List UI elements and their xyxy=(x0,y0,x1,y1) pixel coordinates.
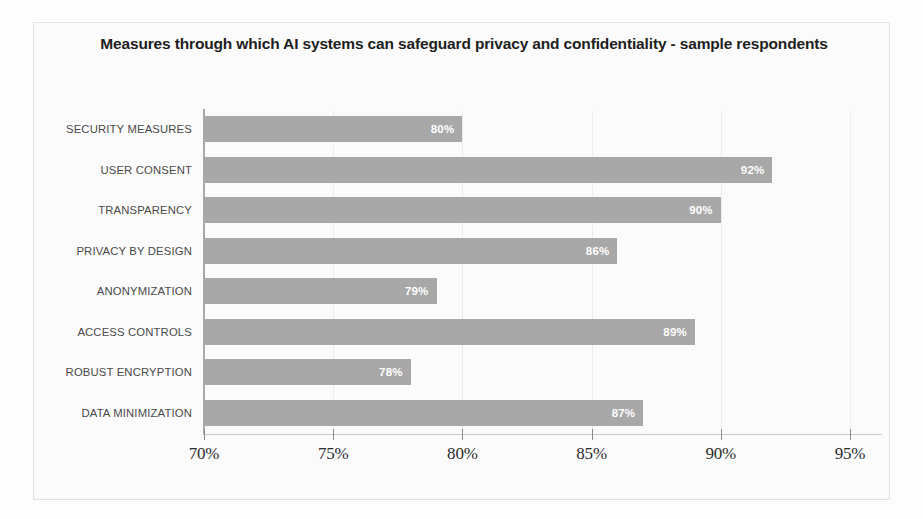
x-tick-label: 95% xyxy=(835,444,866,464)
bar: 87% xyxy=(204,400,643,426)
x-tick-label: 75% xyxy=(318,444,349,464)
x-tick-label: 70% xyxy=(189,444,220,464)
value-axis-line xyxy=(203,434,882,435)
bar-value-label: 92% xyxy=(741,164,765,176)
bar-row: TRANSPARENCY90% xyxy=(34,190,889,230)
bar: 89% xyxy=(204,319,695,345)
bar-track: 87% xyxy=(204,393,889,433)
bar-row: SECURITY MEASURES80% xyxy=(34,109,889,149)
bar-value-label: 89% xyxy=(663,326,687,338)
bar: 79% xyxy=(204,278,437,304)
bar: 78% xyxy=(204,359,411,385)
category-label: ROBUST ENCRYPTION xyxy=(34,366,192,378)
x-tick-mark xyxy=(333,429,334,440)
x-tick-label: 90% xyxy=(706,444,737,464)
bar-row: USER CONSENT92% xyxy=(34,150,889,190)
bar-value-label: 87% xyxy=(612,407,636,419)
bar-row: DATA MINIMIZATION87% xyxy=(34,393,889,433)
bar-track: 80% xyxy=(204,109,889,149)
category-label: ACCESS CONTROLS xyxy=(34,326,192,338)
plot-area: SECURITY MEASURES80%USER CONSENT92%TRANS… xyxy=(34,23,889,499)
bar-value-label: 80% xyxy=(431,123,455,135)
x-tick-mark xyxy=(204,429,205,440)
bar-value-label: 79% xyxy=(405,285,429,297)
bar-track: 78% xyxy=(204,352,889,392)
bar-row: ANONYMIZATION79% xyxy=(34,271,889,311)
bar: 80% xyxy=(204,116,462,142)
x-tick-label: 80% xyxy=(447,444,478,464)
bar-row: PRIVACY BY DESIGN86% xyxy=(34,231,889,271)
bar-track: 79% xyxy=(204,271,889,311)
bar: 90% xyxy=(204,197,721,223)
chart-panel: Measures through which AI systems can sa… xyxy=(33,22,890,500)
bar-value-label: 90% xyxy=(689,204,713,216)
bar-track: 86% xyxy=(204,231,889,271)
category-label: SECURITY MEASURES xyxy=(34,123,192,135)
bar-row: ACCESS CONTROLS89% xyxy=(34,312,889,352)
bar-row: ROBUST ENCRYPTION78% xyxy=(34,352,889,392)
bar-value-label: 78% xyxy=(379,366,403,378)
category-label: DATA MINIMIZATION xyxy=(34,407,192,419)
x-tick-mark xyxy=(721,429,722,440)
page-root: Measures through which AI systems can sa… xyxy=(0,0,923,519)
x-tick-mark xyxy=(592,429,593,440)
bar-value-label: 86% xyxy=(586,245,610,257)
category-label: ANONYMIZATION xyxy=(34,285,192,297)
category-label: PRIVACY BY DESIGN xyxy=(34,245,192,257)
bar: 86% xyxy=(204,238,617,264)
category-label: TRANSPARENCY xyxy=(34,204,192,216)
x-tick-mark xyxy=(462,429,463,440)
bar-track: 89% xyxy=(204,312,889,352)
bar-track: 90% xyxy=(204,190,889,230)
category-label: USER CONSENT xyxy=(34,164,192,176)
x-tick-mark xyxy=(850,429,851,440)
x-tick-label: 85% xyxy=(576,444,607,464)
bar: 92% xyxy=(204,157,772,183)
bar-track: 92% xyxy=(204,150,889,190)
